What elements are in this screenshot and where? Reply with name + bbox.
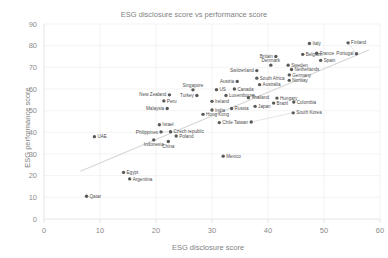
data-point-label: Philippines [136, 130, 159, 135]
data-point [288, 73, 291, 76]
data-point-label: Turkey [180, 93, 195, 98]
data-point-label: Argentina [133, 177, 153, 182]
data-point [255, 76, 258, 79]
data-point-label: New Zealand [139, 92, 167, 97]
data-point [195, 94, 198, 97]
data-point-label: Spain [324, 58, 336, 63]
data-point-label: UAE [97, 134, 106, 139]
data-point [201, 113, 204, 116]
y-tick-label: 10 [29, 193, 37, 202]
data-point-label: Colombia [297, 100, 317, 105]
data-point [162, 99, 165, 102]
data-point [218, 121, 221, 124]
x-tick-label: 60 [376, 226, 384, 235]
data-point-label: Australia [263, 82, 281, 87]
y-tick-label: 80 [29, 41, 37, 50]
data-point-label: Portugal [336, 51, 353, 56]
data-point [250, 120, 253, 123]
data-point-label: France [320, 51, 335, 56]
data-point [166, 107, 169, 110]
data-point [191, 88, 194, 91]
data-point [230, 107, 233, 110]
data-point-label: Netherlands [295, 67, 320, 72]
data-point [158, 123, 161, 126]
data-point-label: Malaysia [146, 106, 165, 111]
data-point [346, 41, 349, 44]
data-point [233, 87, 236, 90]
data-point-label: Norway [292, 78, 308, 83]
x-tick-label: 10 [96, 226, 104, 235]
data-point [292, 100, 295, 103]
y-tick-label: 70 [29, 63, 37, 72]
data-point-label: Britain [260, 54, 273, 59]
data-point [275, 96, 278, 99]
data-point [292, 111, 295, 114]
data-point [169, 130, 172, 133]
data-point-label: Mexico [226, 154, 241, 159]
data-point-label: Hong Kong [206, 112, 229, 117]
data-point [290, 68, 293, 71]
esg-scatter-chart: 0102030405060708090 0102030405060 QatarE… [0, 0, 388, 258]
data-point-label: Switzerland [230, 68, 254, 73]
data-point [215, 88, 218, 91]
data-point [272, 101, 275, 104]
x-axis-title: ESG disclosure score [172, 243, 244, 252]
data-point [308, 42, 311, 45]
data-point [168, 93, 171, 96]
x-tick-label: 50 [320, 226, 328, 235]
data-point [224, 94, 227, 97]
x-tick-label: 20 [152, 226, 160, 235]
data-point-label: Italy [312, 41, 321, 46]
data-point-label: Qatar [90, 194, 102, 199]
data-point-label: Finland [351, 40, 367, 45]
data-point-label: Israel [162, 122, 173, 127]
data-point-label: Singapore [182, 83, 203, 88]
data-point [269, 63, 272, 66]
data-point [355, 52, 358, 55]
data-point [222, 154, 225, 157]
data-point-label: China [162, 144, 174, 149]
data-point-label: South Africa [260, 76, 285, 81]
data-point-label: Japan [258, 104, 271, 109]
data-point-label: Germany [292, 73, 312, 78]
data-labels-group: QatarEgyptArgentinaUAEIndonesiaChinaPhil… [90, 40, 367, 198]
data-point-label: Canada [237, 87, 254, 92]
data-point-label: Egypt [127, 170, 139, 175]
data-point [85, 195, 88, 198]
x-tick-label: 30 [208, 226, 216, 235]
data-point [152, 138, 155, 141]
data-point [301, 53, 304, 56]
x-tick-label: 0 [42, 226, 46, 235]
data-point-label: Brazil [277, 101, 289, 106]
label-leader-line [251, 113, 293, 122]
data-point [128, 177, 131, 180]
data-point-label: US [219, 87, 225, 92]
data-point [236, 80, 239, 83]
data-point-label: Ireland [215, 99, 229, 104]
xtick-group: 0102030405060 [42, 226, 384, 235]
data-point-label: Thailand [251, 95, 269, 100]
data-point [174, 134, 177, 137]
data-point-label: Taiwan [234, 120, 249, 125]
y-tick-label: 90 [29, 20, 37, 29]
data-point [210, 100, 213, 103]
data-point [258, 83, 261, 86]
data-point [159, 130, 162, 133]
data-point-label: South Korea [296, 110, 322, 115]
data-point [253, 105, 256, 108]
data-point [122, 171, 125, 174]
chart-canvas: 0102030405060708090 0102030405060 QatarE… [0, 0, 388, 258]
data-point [167, 140, 170, 143]
y-tick-label: 0 [33, 215, 37, 224]
y-tick-label: 20 [29, 171, 37, 180]
chart-title: ESG disclosure score vs performance scor… [121, 10, 267, 19]
data-point [286, 63, 289, 66]
x-tick-label: 40 [264, 226, 272, 235]
data-point [288, 79, 291, 82]
data-point-label: Chile [222, 120, 233, 125]
data-point-label: Poland [179, 134, 194, 139]
data-point-label: Russia [235, 106, 249, 111]
data-point-label: Indonesia [144, 142, 164, 147]
data-point-label: Peru [167, 99, 177, 104]
data-point [319, 59, 322, 62]
